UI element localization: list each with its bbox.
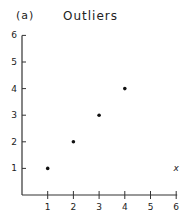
outlier-x-marker: x bbox=[173, 163, 180, 173]
scatter-plot: 123456123456x bbox=[0, 0, 193, 224]
data-point bbox=[97, 113, 101, 117]
y-tick-label: 2 bbox=[11, 137, 17, 147]
data-point bbox=[46, 167, 50, 171]
x-tick-label: 4 bbox=[122, 202, 128, 212]
y-tick-label: 3 bbox=[11, 110, 17, 120]
y-tick-label: 5 bbox=[11, 57, 17, 67]
x-tick-label: 1 bbox=[45, 202, 51, 212]
y-tick-label: 1 bbox=[11, 163, 17, 173]
x-tick-label: 5 bbox=[148, 202, 154, 212]
x-tick-label: 6 bbox=[173, 202, 179, 212]
y-tick-label: 6 bbox=[11, 30, 17, 40]
data-point bbox=[123, 87, 127, 91]
x-tick-label: 3 bbox=[96, 202, 102, 212]
x-tick-label: 2 bbox=[71, 202, 77, 212]
y-tick-label: 4 bbox=[11, 84, 17, 94]
data-point bbox=[72, 140, 76, 144]
